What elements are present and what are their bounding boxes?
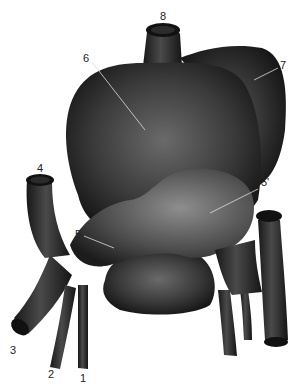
vessel-right-branch [215, 240, 262, 295]
label-6: 6 [83, 53, 89, 64]
vessel-right-small-a [218, 290, 237, 356]
label-7: 7 [280, 60, 286, 71]
label-3: 3 [10, 345, 16, 356]
vessel-4 [27, 180, 70, 258]
label-8: 8 [160, 11, 166, 22]
anatomical-illustration [0, 0, 301, 388]
label-1: 1 [80, 373, 86, 384]
label-5-prime: 5' [261, 177, 269, 188]
label-5: 5 [75, 229, 81, 240]
vessel-right-large-bottom-opening [264, 337, 288, 347]
label-4: 4 [37, 163, 43, 174]
vessel-right-large-top-opening [256, 210, 282, 222]
vessel-right-small-b [240, 290, 252, 340]
vessel-1 [78, 285, 88, 369]
vessel-right-large [258, 220, 288, 340]
label-2: 2 [48, 369, 54, 380]
